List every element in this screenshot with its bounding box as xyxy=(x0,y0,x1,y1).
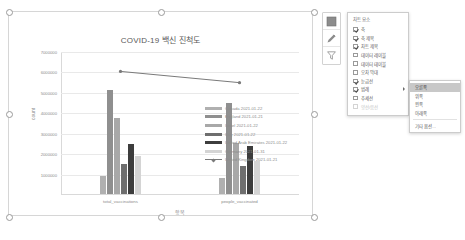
legend-item[interactable]: United Arab Emirates 2021-01-22 xyxy=(205,138,313,147)
chart-element-row[interactable]: 축 xyxy=(348,25,408,34)
screenshot-root: COVID-19 백신 진척도 count 항목 100000020000003… xyxy=(0,0,465,240)
chart-elements-list[interactable]: 축축 제목차트 제목데이터 레이블데이터 테이블오차 막대눈금선범례추세선양선/… xyxy=(348,25,408,111)
legend-position-option[interactable]: 왼쪽 xyxy=(410,100,460,109)
legend-item[interactable]: United Kingdom 2021-01-21 xyxy=(205,156,313,165)
legend-position-option[interactable]: 오른쪽 xyxy=(410,83,460,92)
y-axis-tick-label: 3000000 xyxy=(41,131,57,136)
resize-handle-tc[interactable] xyxy=(158,9,165,16)
chart-element-row[interactable]: 데이터 테이블 xyxy=(348,59,408,68)
legend-more-options[interactable]: 기타 옵션... xyxy=(410,121,460,130)
chart-element-label: 축 제목 xyxy=(361,35,374,41)
chart-element-label: 눈금선 xyxy=(361,78,373,84)
chart-element-label: 데이터 테이블 xyxy=(361,61,386,67)
chart-element-row[interactable]: 추세선 xyxy=(348,94,408,103)
chart-element-row[interactable]: 눈금선 xyxy=(348,77,408,86)
legend-item[interactable]: Italy 2021-01-22 xyxy=(205,130,313,139)
resize-handle-tr[interactable] xyxy=(311,9,318,16)
submenu-divider xyxy=(413,119,457,120)
resize-handle-tl[interactable] xyxy=(6,9,13,16)
chart-element-label: 오차 막대 xyxy=(361,69,378,75)
legend-position-option[interactable]: 아래쪽 xyxy=(410,109,460,118)
x-axis-tick-label: people_vaccinated xyxy=(221,199,258,204)
y-axis-tick-label: 5000000 xyxy=(41,90,57,95)
x-axis-tick-label: total_vaccinations xyxy=(103,199,138,204)
y-axis-tick-label: 4000000 xyxy=(41,111,57,116)
legend-position-submenu[interactable]: 오른쪽위쪽왼쪽아래쪽 기타 옵션... xyxy=(409,80,461,133)
chart-element-row: 양선/음선 xyxy=(348,102,408,111)
legend-position-option[interactable]: 위쪽 xyxy=(410,92,460,101)
y-axis-tick-label: 6000000 xyxy=(41,70,57,75)
chart-filters-icon[interactable] xyxy=(323,47,340,64)
resize-handle-bl[interactable] xyxy=(6,214,13,221)
legend-swatch xyxy=(205,141,222,144)
chart-styles-icon[interactable] xyxy=(323,30,340,47)
chart-elements-icon[interactable] xyxy=(323,13,340,30)
chart-element-label: 데이터 레이블 xyxy=(361,52,386,58)
resize-handle-br[interactable] xyxy=(311,214,318,221)
chart-element-checkbox[interactable] xyxy=(353,79,358,84)
chart-element-checkbox[interactable] xyxy=(353,44,358,49)
chart-element-checkbox[interactable] xyxy=(353,70,358,75)
legend-label: United Arab Emirates 2021-01-22 xyxy=(225,140,287,145)
y-axis-tick-label: 1000000 xyxy=(41,172,57,177)
chart-element-label: 차트 제목 xyxy=(361,43,378,49)
resize-handle-mr[interactable] xyxy=(311,111,318,118)
legend-swatch xyxy=(205,107,222,110)
chart-element-checkbox[interactable] xyxy=(353,53,358,58)
legend-label: England 2021-01-21 xyxy=(225,114,263,119)
chart-title[interactable]: COVID-19 백신 진척도 xyxy=(9,34,312,45)
chart-element-row[interactable]: 데이터 레이블 xyxy=(348,51,408,60)
legend-line-marker xyxy=(205,159,222,160)
chart-element-label: 축 xyxy=(361,26,365,32)
chart-object[interactable]: COVID-19 백신 진척도 count 항목 100000020000003… xyxy=(8,11,313,216)
legend-swatch xyxy=(205,115,222,118)
y-axis-tick-label: 7000000 xyxy=(41,50,57,55)
chart-elements-panel[interactable]: 차트 요소 축축 제목차트 제목데이터 레이블데이터 테이블오차 막대눈금선범례… xyxy=(347,12,409,116)
chart-element-label: 양선/음선 xyxy=(361,104,378,110)
chart-element-row[interactable]: 축 제목 xyxy=(348,34,408,43)
chart-element-checkbox[interactable] xyxy=(353,27,358,32)
chart-element-label: 추세선 xyxy=(361,95,373,101)
chart-element-row[interactable]: 차트 제목 xyxy=(348,42,408,51)
legend-label: Israel 2021-01-22 xyxy=(225,123,258,128)
legend-item[interactable]: Germany 2021-01-31 xyxy=(205,147,313,156)
legend-item[interactable]: Israel 2021-01-22 xyxy=(205,121,313,130)
legend-label: Canada 2021-01-22 xyxy=(225,106,262,111)
chart-element-row[interactable]: 범례 xyxy=(348,85,408,94)
chart-element-checkbox[interactable] xyxy=(353,61,358,66)
legend-label: Italy 2021-01-22 xyxy=(225,132,255,137)
legend-swatch xyxy=(205,150,222,153)
resize-handle-bc[interactable] xyxy=(158,214,165,221)
chart-element-checkbox[interactable] xyxy=(353,87,358,92)
legend-item[interactable]: England 2021-01-21 xyxy=(205,113,313,122)
chart-element-row[interactable]: 오차 막대 xyxy=(348,68,408,77)
chart-elements-title: 차트 요소 xyxy=(348,16,408,25)
chart-element-checkbox xyxy=(353,104,358,109)
chart-element-label: 범례 xyxy=(361,86,369,92)
legend-label: United Kingdom 2021-01-21 xyxy=(225,157,277,162)
legend-swatch xyxy=(205,133,222,136)
legend-label: Germany 2021-01-31 xyxy=(225,149,265,154)
y-axis-tick-label: 2000000 xyxy=(41,152,57,157)
legend-position-list[interactable]: 오른쪽위쪽왼쪽아래쪽 xyxy=(410,83,460,117)
chart-side-toolbar[interactable] xyxy=(322,12,341,65)
chart-legend[interactable]: Canada 2021-01-22England 2021-01-21Israe… xyxy=(205,104,313,164)
legend-swatch xyxy=(205,124,222,127)
y-axis-title[interactable]: count xyxy=(30,107,36,119)
chevron-right-icon[interactable] xyxy=(403,87,405,91)
chart-element-checkbox[interactable] xyxy=(353,96,358,101)
resize-handle-ml[interactable] xyxy=(6,111,13,118)
chart-element-checkbox[interactable] xyxy=(353,36,358,41)
legend-item[interactable]: Canada 2021-01-22 xyxy=(205,104,313,113)
x-axis-title[interactable]: 항목 xyxy=(61,208,299,215)
